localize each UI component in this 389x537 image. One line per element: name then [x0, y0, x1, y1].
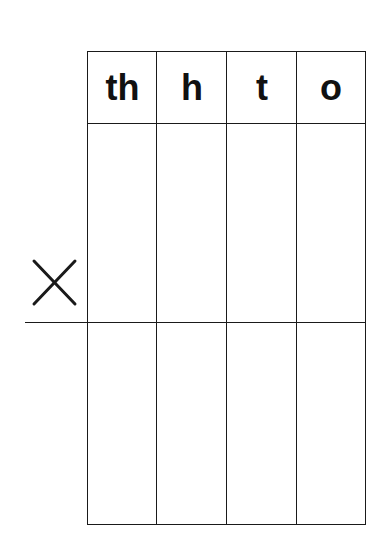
multiplication-line [25, 322, 366, 323]
column-header-hundreds: h [157, 52, 227, 124]
multiply-icon [31, 256, 79, 308]
header-divider [88, 123, 365, 124]
place-value-grid: th h t o [87, 51, 366, 525]
column-header-tens: t [227, 52, 297, 124]
column-header-thousands: th [88, 52, 157, 124]
column-header-ones: o [297, 52, 365, 124]
